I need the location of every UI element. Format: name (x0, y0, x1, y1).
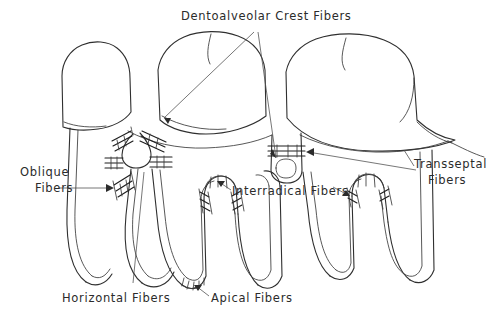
label-apical-fibers: Apical Fibers (211, 291, 293, 305)
label-interradical-fibers: Interradical Fibers (232, 184, 349, 198)
dental-fiber-diagram: Dentoalveolar Crest Fibers Oblique Fiber… (0, 0, 496, 325)
root-left (67, 128, 112, 285)
tooth-crown-left (62, 42, 131, 130)
tooth-crown-right (286, 34, 455, 151)
label-oblique-fibers-line1: Oblique (20, 165, 69, 179)
leader-dentoalveolar-crest (164, 32, 276, 158)
tooth-crown-middle (158, 32, 266, 134)
leader-apical (194, 285, 209, 296)
label-transseptal-fibers-line2: Fibers (428, 173, 466, 187)
figure-canvas: Dentoalveolar Crest Fibers Oblique Fiber… (0, 0, 496, 325)
interradical-fibers-right (347, 173, 392, 209)
horizontal-fibers (105, 156, 172, 169)
dentoalveolar-crest-fibers (112, 131, 166, 152)
label-horizontal-fibers: Horizontal Fibers (62, 291, 170, 305)
label-oblique-fibers-line2: Fibers (35, 181, 73, 195)
label-transseptal-fibers-line1: Transseptal (413, 157, 487, 171)
oblique-fibers (113, 171, 135, 200)
label-dentoalveolar-crest-fibers: Dentoalveolar Crest Fibers (181, 9, 352, 23)
root-middle-mesial (152, 169, 206, 288)
